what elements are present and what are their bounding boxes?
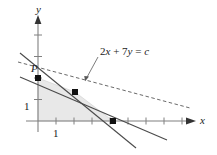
x-axis-tick-label-1: 1 [53, 128, 59, 139]
y-axis-tick-label-1: 1 [24, 101, 30, 112]
point-P-label: P [31, 63, 38, 74]
figure-canvas [0, 0, 217, 155]
objective-const: c [144, 45, 149, 57]
x-axis-arrow [186, 118, 196, 125]
objective-plus: + [110, 45, 122, 57]
point-vertex-interior-marker [72, 89, 78, 95]
math-figure: y x 1 1 P 2x + 7y = c [0, 0, 217, 155]
point-vertex-x-axis-marker [110, 118, 116, 124]
y-axis-arrow [35, 15, 42, 24]
x-axis-label: x [200, 115, 205, 126]
objective-function-label: 2x + 7y = c [100, 46, 149, 57]
objective-equals: = [133, 45, 145, 57]
point-P-marker [35, 75, 41, 81]
y-axis-label: y [36, 4, 41, 15]
objective-leader-line [86, 57, 98, 79]
